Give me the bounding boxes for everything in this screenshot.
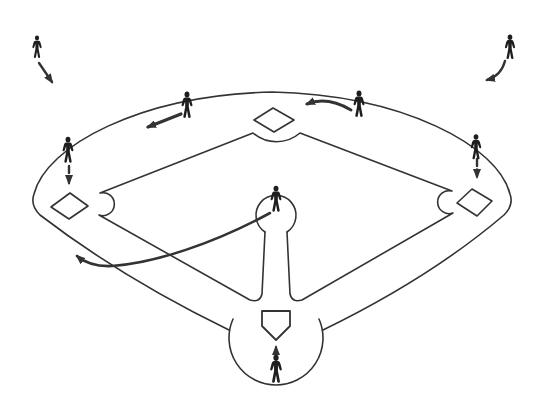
shortstop-icon [182, 92, 193, 118]
second-baseman-movement-arrow [307, 101, 351, 110]
baseball-play-diagram-page [0, 0, 540, 410]
field-outline [33, 92, 511, 330]
right-fielder-movement-arrow [487, 61, 505, 80]
right-fielder-icon [505, 35, 515, 59]
first-base [457, 189, 492, 216]
pitcher-movement-arrow [77, 213, 270, 266]
shortstop-movement-arrow [148, 114, 181, 127]
left-fielder-icon [32, 36, 41, 58]
infield-grass-line [99, 133, 453, 301]
third-base [51, 193, 88, 219]
left-fielder-movement-arrow [39, 63, 52, 82]
second-base [254, 108, 294, 132]
second-baseman-icon [354, 91, 365, 117]
home-plate [262, 311, 290, 340]
pitcher-icon [271, 186, 282, 212]
catcher-icon [270, 355, 282, 383]
field-diagram [0, 0, 540, 410]
third-baseman-icon [63, 137, 74, 163]
first-baseman-icon [471, 134, 481, 159]
